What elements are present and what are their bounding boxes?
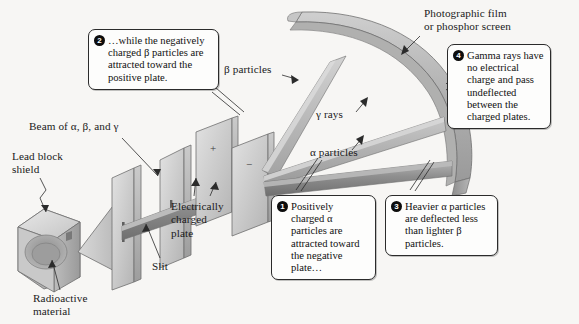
- lead-block-shield-label: Lead block shield: [12, 150, 63, 177]
- callout-number-4: 4: [453, 50, 464, 61]
- callout-text-3: Heavier α particles are deflected less t…: [405, 201, 491, 250]
- diagram-canvas: + −: [0, 0, 579, 324]
- slit-label: Slit: [152, 260, 168, 273]
- callout-text-2: …while the negatively charged β particle…: [108, 35, 212, 84]
- callout-box-1: 1 Positively charged α particles are att…: [271, 195, 376, 280]
- callout-number-3: 3: [391, 201, 402, 212]
- electrically-charged-plate-label: Electrically charged plate: [171, 200, 224, 240]
- callout-box-2: 2 …while the negatively charged β partic…: [88, 29, 219, 90]
- callout-number-1: 1: [277, 201, 288, 212]
- gamma-rays-label: γ rays: [316, 108, 343, 121]
- alpha-particles-label: α particles: [310, 146, 358, 159]
- callout-number-2: 2: [94, 35, 105, 46]
- lead-block-shield-cube: [18, 209, 80, 292]
- svg-text:−: −: [246, 158, 252, 170]
- beam-label: Beam of α, β, and γ: [29, 120, 119, 133]
- callout-text-4: Gamma rays have no electrical charge and…: [467, 50, 544, 123]
- photographic-film-label: Photographic film or phosphor screen: [424, 7, 511, 34]
- callout-text-1: Positively charged α particles are attra…: [291, 201, 369, 274]
- beta-particles-label: β particles: [224, 63, 271, 76]
- svg-text:+: +: [210, 142, 216, 154]
- radioactive-material-label: Radioactive material: [33, 292, 88, 319]
- callout-box-4: 4 Gamma rays have no electrical charge a…: [447, 44, 551, 129]
- callout-box-3: 3 Heavier α particles are deflected less…: [385, 195, 498, 256]
